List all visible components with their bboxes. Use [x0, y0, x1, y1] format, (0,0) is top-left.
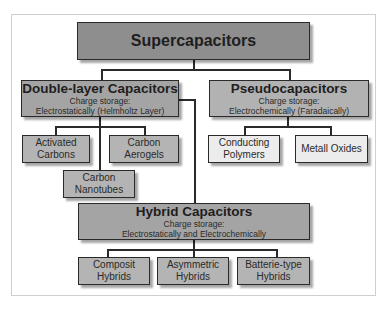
connector-to-batterie-hybrids	[276, 249, 278, 257]
node-pseudocapacitors: Pseudocapacitors Charge storage: Electro…	[209, 80, 369, 117]
node-title: Supercapacitors	[131, 32, 256, 50]
node-storage-label: Charge storage:	[259, 96, 320, 106]
node-label-line2: Carbons	[37, 149, 75, 161]
connector-to-activated-carbons	[55, 126, 57, 135]
node-metall-oxides: Metall Oxides	[295, 135, 368, 163]
node-activated-carbons: Activated Carbons	[22, 135, 90, 163]
node-conducting-polymers: Conducting Polymers	[208, 135, 280, 163]
connector-hybrid-children	[107, 249, 277, 251]
node-carbon-nanotubes: Carbon Nanotubes	[63, 170, 135, 198]
node-label-line1: Composit	[93, 259, 135, 271]
node-storage-mode: Electrochemically (Faradaically)	[229, 106, 349, 116]
connector-to-metall-oxides	[330, 126, 332, 135]
node-label-line1: Batterie-type	[245, 259, 302, 271]
connector-double-layer-down	[99, 117, 101, 170]
node-label-line1: Asymmetric	[167, 259, 219, 271]
node-title: Pseudocapacitors	[231, 81, 347, 96]
node-label-line2: Aerogels	[124, 149, 163, 161]
node-storage-mode: Electrostatically and Electrochemically	[122, 229, 266, 239]
node-storage-label: Charge storage:	[70, 96, 131, 106]
node-title: Hybrid Capacitors	[136, 204, 252, 219]
node-double-layer-capacitors: Double-layer Capacitors Charge storage: …	[21, 80, 179, 117]
node-title: Double-layer Capacitors	[22, 81, 177, 96]
connector-to-pseudo	[289, 69, 291, 80]
node-label-line1: Metall Oxides	[301, 143, 362, 155]
connector-pseudo-children	[244, 126, 331, 128]
connector-to-hybrid	[194, 99, 196, 203]
node-carbon-aerogels: Carbon Aerogels	[109, 135, 179, 163]
connector-to-carbon-aerogels	[144, 126, 146, 135]
node-label-line2: Nanotubes	[75, 184, 123, 196]
node-label-line1: Carbon	[83, 172, 116, 184]
connector-level1-horizontal	[101, 69, 291, 71]
node-storage-label: Charge storage:	[164, 219, 225, 229]
connector-to-asymmetric-hybrids	[193, 249, 195, 257]
node-supercapacitors: Supercapacitors	[77, 22, 310, 60]
node-label-line1: Activated	[35, 137, 76, 149]
node-hybrid-capacitors: Hybrid Capacitors Charge storage: Electr…	[78, 203, 310, 240]
connector-to-double-layer	[101, 69, 103, 80]
node-label-line1: Conducting	[219, 137, 270, 149]
node-storage-mode: Electrostatically (Helmholtz Layer)	[36, 106, 164, 116]
node-label-line2: Hybrids	[257, 271, 291, 283]
node-label-line2: Hybrids	[97, 271, 131, 283]
node-label-line2: Hybrids	[176, 271, 210, 283]
connector-double-layer-children	[55, 126, 145, 128]
node-label-line2: Polymers	[223, 149, 265, 161]
node-batterie-type-hybrids: Batterie-type Hybrids	[237, 257, 310, 285]
node-label-line1: Carbon	[128, 137, 161, 149]
node-asymmetric-hybrids: Asymmetric Hybrids	[157, 257, 229, 285]
node-composit-hybrids: Composit Hybrids	[78, 257, 150, 285]
connector-double-to-hybrid-h	[179, 99, 195, 101]
connector-to-conducting-polymers	[244, 126, 246, 135]
connector-pseudo-down	[287, 117, 289, 126]
connector-to-composit-hybrids	[107, 249, 109, 257]
connector-hybrid-down	[193, 240, 195, 249]
